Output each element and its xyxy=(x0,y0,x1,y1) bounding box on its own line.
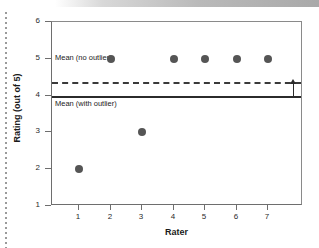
data-point xyxy=(107,55,115,63)
mean-shift-arrow-head xyxy=(290,79,296,84)
mean-no-outlier-line xyxy=(52,82,301,84)
data-point xyxy=(264,55,272,63)
x-tick-mark xyxy=(110,205,111,210)
x-tick-mark xyxy=(141,205,142,210)
y-tick-label: 2 xyxy=(18,164,40,172)
data-point xyxy=(201,55,209,63)
y-tick-label: 6 xyxy=(18,17,40,25)
x-tick-mark xyxy=(236,205,237,210)
data-point xyxy=(138,128,146,136)
x-tick-label: 2 xyxy=(102,212,118,221)
x-tick-label: 3 xyxy=(133,212,149,221)
chart-figure: 6 5 4 3 2 1 1 2 3 4 5 6 7 Rater Rating (… xyxy=(0,0,319,248)
page-margin-rule xyxy=(5,12,7,248)
x-tick-label: 1 xyxy=(70,212,86,221)
x-tick-label: 6 xyxy=(228,212,244,221)
x-tick-label: 4 xyxy=(165,212,181,221)
mean-with-outlier-label: Mean (with outlier) xyxy=(54,99,118,108)
y-tick-mark xyxy=(45,205,51,206)
mean-no-outlier-label: Mean (no outlier) xyxy=(54,53,113,62)
x-tick-mark xyxy=(78,205,79,210)
x-axis-title: Rater xyxy=(51,227,302,237)
x-tick-mark xyxy=(267,205,268,210)
x-tick-label: 7 xyxy=(259,212,275,221)
x-tick-label: 5 xyxy=(196,212,212,221)
data-point xyxy=(75,165,83,173)
page-header-strip xyxy=(55,0,319,7)
mean-with-outlier-line xyxy=(52,96,301,98)
data-point xyxy=(233,55,241,63)
mean-shift-arrow-stem xyxy=(293,84,294,98)
plot-area: Mean (no outlier) Mean (with outlier) xyxy=(51,21,302,205)
x-tick-mark xyxy=(204,205,205,210)
y-axis-title: Rating (out of 5) xyxy=(12,53,22,163)
y-tick-label: 1 xyxy=(18,201,40,209)
data-point xyxy=(170,55,178,63)
x-tick-mark xyxy=(173,205,174,210)
